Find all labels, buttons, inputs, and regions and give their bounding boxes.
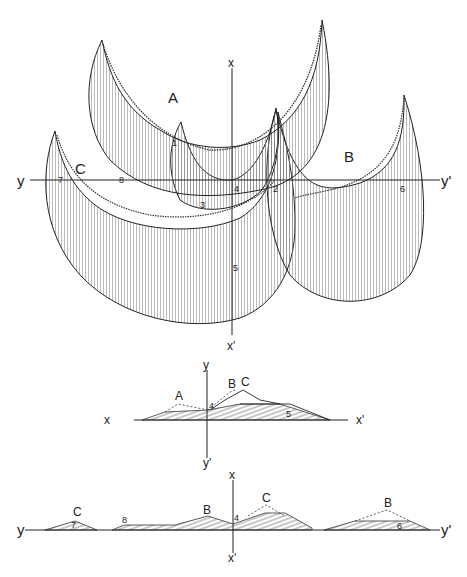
point-4-label: 4 <box>234 184 239 194</box>
profile-y-top-label: x <box>229 468 235 482</box>
plan-axis-x-prime-label: x' <box>227 339 235 353</box>
profile-x-bottom-label: y' <box>203 456 211 470</box>
profile-y-label-6: 6 <box>397 521 402 531</box>
dune-a-plan <box>89 20 329 196</box>
point-6-label: 6 <box>400 184 405 194</box>
point-2-label: 2 <box>273 184 278 194</box>
profile-y-label-4: 4 <box>234 513 239 523</box>
profile-y-label-b-left: B <box>203 503 211 517</box>
profile-x-label-b: B <box>228 377 236 391</box>
plan-axis-y-prime-label: y' <box>441 172 452 189</box>
plan-view: x x' y y' A B C 1 2 3 4 5 6 7 8 <box>17 20 452 353</box>
profile-y-left-label: y <box>17 521 25 538</box>
profile-y-right-label: y' <box>441 521 452 538</box>
dune-c-label: C <box>75 160 86 177</box>
dune-b-label: B <box>344 148 354 165</box>
dune-a-label: A <box>168 89 178 106</box>
point-7-label: 7 <box>58 175 63 185</box>
profile-y-label-7: 7 <box>71 520 76 530</box>
point-1-label: 1 <box>172 138 177 148</box>
profile-x-label-a: A <box>175 389 183 403</box>
plan-axis-y-label: y <box>17 172 25 189</box>
plan-axis-x-label: x <box>228 56 234 70</box>
profile-x-section: x x' y y' A B C 4 5 <box>104 358 364 470</box>
profile-x-label-4: 4 <box>209 401 214 411</box>
profile-x-top-label: y <box>203 358 209 372</box>
profile-x-left-label: x <box>104 413 110 427</box>
profile-x-label-c: C <box>241 375 250 389</box>
barchan-dune-diagram: x x' y y' A B C 1 2 3 4 5 6 7 8 x x' y y… <box>0 0 467 577</box>
profile-x-right-label: x' <box>356 413 364 427</box>
profile-y-label-c-left: C <box>73 505 82 519</box>
profile-y-label-b-right: B <box>384 496 392 510</box>
point-3-label: 3 <box>200 200 205 210</box>
profile-y-section: y y' x x' C B C B 4 7 8 6 <box>17 468 452 565</box>
profile-x-label-5: 5 <box>286 409 291 419</box>
profile-y-bottom-label: x' <box>228 551 236 565</box>
profile-y-label-8: 8 <box>122 515 127 525</box>
point-8-label: 8 <box>119 175 124 185</box>
profile-y-label-c-right: C <box>262 491 271 505</box>
point-5-label: 5 <box>233 263 238 273</box>
